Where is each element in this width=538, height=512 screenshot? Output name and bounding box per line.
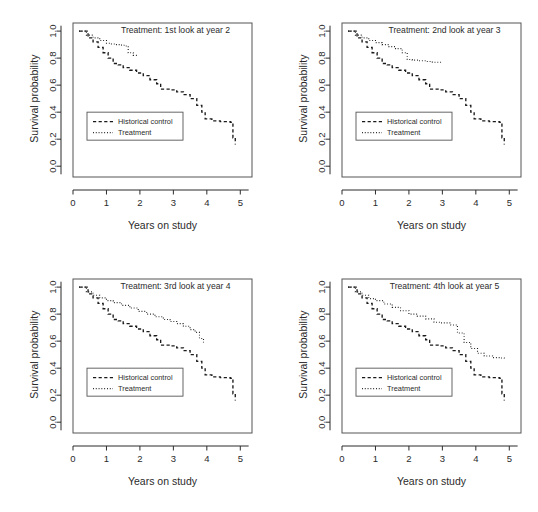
legend: Historical controlTreatment [87,112,183,140]
plot-canvas: 012345Years on study0.00.20.40.60.81.0Su… [269,0,538,256]
panel-title: Treatment: 3rd look at year 4 [120,281,230,291]
legend-label-control: Historical control [118,373,173,382]
legend-label-control: Historical control [118,117,173,126]
y-axis-title: Survival probability [297,310,309,399]
y-tick-label: 0.8 [47,308,58,321]
panel-title: Treatment: 2nd look at year 3 [389,25,501,35]
x-tick-label: 5 [507,197,512,208]
panel-2nd-look: 012345Years on study0.00.20.40.60.81.0Su… [269,0,538,256]
y-tick-label: 1.0 [316,280,327,293]
x-tick-label: 1 [373,197,378,208]
y-axis-title: Survival probability [28,310,40,399]
x-tick-label: 1 [104,453,109,464]
x-tick-label: 4 [204,453,209,464]
x-tick-label: 2 [137,197,142,208]
x-tick-label: 4 [473,453,478,464]
x-tick-label: 0 [70,197,75,208]
x-axis-title: Years on study [397,219,467,231]
y-tick-label: 0.8 [316,308,327,321]
treatment-curve [79,287,203,342]
x-tick-label: 2 [406,197,411,208]
x-axis-title: Years on study [128,475,198,487]
y-tick-label: 1.0 [47,24,58,37]
x-tick-label: 5 [507,453,512,464]
y-axis-title: Survival probability [297,54,309,143]
x-axis-title: Years on study [397,475,467,487]
treatment-curve [348,31,442,62]
x-tick-label: 3 [171,453,176,464]
y-tick-label: 0.4 [47,362,58,375]
y-tick-label: 0.2 [47,389,58,402]
legend-label-control: Historical control [387,117,442,126]
survival-figure: 012345Years on study0.00.20.40.60.81.0Su… [0,0,538,512]
panel-title: Treatment: 4th look at year 5 [390,281,500,291]
y-tick-label: 0.4 [316,106,327,119]
y-axis-title: Survival probability [28,54,40,143]
y-tick-label: 0.4 [316,362,327,375]
panel-1st-look: 012345Years on study0.00.20.40.60.81.0Su… [0,0,269,256]
legend-label-treatment: Treatment [387,384,420,393]
x-axis-title: Years on study [128,219,198,231]
y-tick-label: 0.0 [316,416,327,429]
treatment-curve [348,287,504,359]
x-tick-label: 2 [406,453,411,464]
plot-frame [342,279,521,433]
y-tick-label: 1.0 [47,280,58,293]
y-tick-label: 0.0 [47,416,58,429]
plot-frame [73,23,252,177]
panel-title: Treatment: 1st look at year 2 [121,25,230,35]
y-tick-label: 0.6 [47,335,58,348]
x-tick-label: 4 [204,197,209,208]
plot-canvas: 012345Years on study0.00.20.40.60.81.0Su… [0,0,269,256]
y-tick-label: 0.0 [316,160,327,173]
x-tick-label: 3 [440,453,445,464]
y-tick-label: 0.4 [47,106,58,119]
x-tick-label: 0 [339,197,344,208]
legend: Historical controlTreatment [356,112,452,140]
plot-frame [73,279,252,433]
legend-label-treatment: Treatment [118,128,151,137]
y-tick-label: 0.2 [316,133,327,146]
x-tick-label: 0 [339,453,344,464]
x-tick-label: 1 [104,197,109,208]
x-tick-label: 5 [238,197,243,208]
y-tick-label: 0.6 [316,79,327,92]
panel-3rd-look: 012345Years on study0.00.20.40.60.81.0Su… [0,256,269,512]
plot-canvas: 012345Years on study0.00.20.40.60.81.0Su… [0,256,269,512]
legend: Historical controlTreatment [87,368,183,396]
y-tick-label: 0.8 [47,52,58,65]
plot-frame [342,23,521,177]
y-tick-label: 0.2 [316,389,327,402]
plot-canvas: 012345Years on study0.00.20.40.60.81.0Su… [269,256,538,512]
legend: Historical controlTreatment [356,368,452,396]
y-tick-label: 0.2 [47,133,58,146]
y-tick-label: 0.6 [47,79,58,92]
x-tick-label: 3 [171,197,176,208]
x-tick-label: 0 [70,453,75,464]
legend-label-control: Historical control [387,373,442,382]
x-tick-label: 3 [440,197,445,208]
y-tick-label: 1.0 [316,24,327,37]
y-tick-label: 0.6 [316,335,327,348]
legend-label-treatment: Treatment [387,128,420,137]
legend-label-treatment: Treatment [118,384,151,393]
x-tick-label: 5 [238,453,243,464]
x-tick-label: 1 [373,453,378,464]
y-tick-label: 0.8 [316,52,327,65]
y-tick-label: 0.0 [47,160,58,173]
x-tick-label: 4 [473,197,478,208]
panel-4th-look: 012345Years on study0.00.20.40.60.81.0Su… [269,256,538,512]
x-tick-label: 2 [137,453,142,464]
